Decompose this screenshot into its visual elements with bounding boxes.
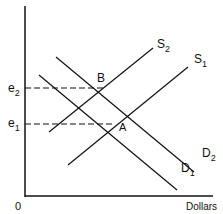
e1-label: e1 bbox=[8, 116, 20, 133]
d1-label: D1 bbox=[181, 161, 195, 178]
supply-demand-diagram: e2 e1 B A S2 S1 D2 D1 0 Dollars bbox=[0, 0, 223, 214]
e2-label: e2 bbox=[8, 81, 20, 98]
d2-label: D2 bbox=[202, 146, 216, 163]
demand-curve-d2 bbox=[56, 57, 194, 172]
s2-label: S2 bbox=[157, 37, 170, 54]
origin-label: 0 bbox=[15, 200, 21, 212]
supply-curve-s2 bbox=[49, 48, 153, 132]
point-b-label: B bbox=[97, 71, 105, 85]
s1-label: S1 bbox=[194, 52, 207, 69]
point-a-label: A bbox=[119, 121, 127, 133]
x-axis-label: Dollars bbox=[186, 201, 217, 212]
